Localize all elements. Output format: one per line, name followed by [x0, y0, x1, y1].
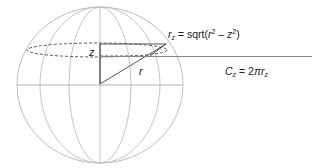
rz-formula: rz = sqrt(r2 – z2): [168, 28, 240, 41]
cz-formula: Cz = 2πrz: [225, 65, 268, 78]
r-segment: [100, 44, 166, 84]
cz-eq: = 2: [236, 65, 254, 77]
rz-eq: = sqrt(: [175, 28, 208, 40]
rz-minus: –: [215, 28, 227, 40]
rz-close: ): [236, 28, 240, 40]
sphere-diagram: z r rz = sqrt(r2 – z2) Cz = 2πrz: [0, 0, 318, 168]
r-label: r: [139, 65, 144, 77]
cz-sub2: z: [263, 71, 268, 78]
z-label: z: [88, 46, 95, 58]
